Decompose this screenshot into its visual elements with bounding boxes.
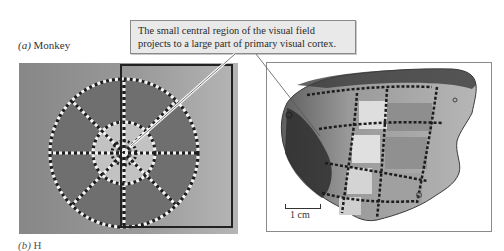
callout-line-1: The small central region of the visual f… xyxy=(138,24,349,37)
panel-b-species: H xyxy=(34,239,42,251)
panel-b-label: (b) H xyxy=(18,239,42,251)
panel-b-letter: (b) xyxy=(18,239,31,251)
panel-a-label: (a) Monkey xyxy=(18,39,70,51)
scale-bar-label: 1 cm xyxy=(290,209,310,220)
callout-line-2: projects to a large part of primary visu… xyxy=(138,37,349,50)
callout-box: The small central region of the visual f… xyxy=(130,20,356,54)
visual-field-diagram xyxy=(19,63,238,234)
panel-a-letter: (a) xyxy=(18,39,31,51)
visual-field-map-graphic xyxy=(19,63,238,234)
panel-a-species: Monkey xyxy=(34,39,71,51)
